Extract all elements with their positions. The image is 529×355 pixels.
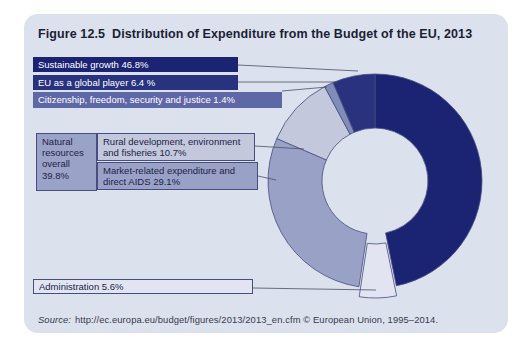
source-line: Source:http://ec.europa.eu/budget/figure…	[38, 314, 500, 325]
donut-slice	[268, 139, 367, 287]
label-citizenship: Citizenship, freedom, security and justi…	[33, 92, 282, 108]
label-natural-resources: Natural resources overall 39.8%	[36, 133, 97, 191]
source-text: http://ec.europa.eu/budget/figures/2013/…	[75, 314, 438, 325]
leader-line	[253, 288, 376, 290]
label-market-related: Market-related expenditure and direct AI…	[97, 162, 258, 190]
source-prefix: Source:	[38, 314, 71, 325]
label-eu-global-player: EU as a global player 6.4 %	[33, 75, 238, 90]
label-sustainable-growth: Sustainable growth 46.8%	[33, 57, 238, 72]
label-administration: Administration 5.6%	[33, 279, 253, 294]
label-rural-development: Rural development, environment and fishe…	[97, 133, 255, 161]
leader-line	[238, 65, 358, 71]
page-background: Figure 12.5Distribution of Expenditure f…	[0, 0, 529, 355]
donut-slice	[375, 74, 482, 286]
figure-panel: Figure 12.5Distribution of Expenditure f…	[24, 14, 508, 333]
